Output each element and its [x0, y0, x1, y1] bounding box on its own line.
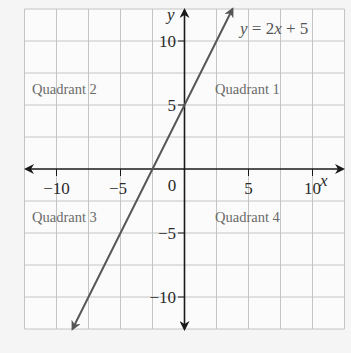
x-tick-label-neg10: −10 [43, 179, 70, 198]
quadrant-4-label: Quadrant 4 [215, 209, 281, 225]
equation-label: y = 2x + 5 [238, 19, 308, 38]
y-tick-label-neg5: −5 [158, 224, 176, 243]
x-tick-label-10: 10 [304, 179, 321, 198]
coordinate-plane-chart: −10 −5 0 5 10 10 5 −5 −10 x y y = 2x + 5… [0, 0, 351, 353]
y-tick-label-neg10: −10 [149, 288, 176, 307]
origin-label: 0 [168, 176, 177, 195]
equation-y: y [238, 19, 248, 38]
y-tick-label-5: 5 [168, 96, 177, 115]
quadrant-2-label: Quadrant 2 [32, 81, 97, 97]
y-tick-label-10: 10 [159, 32, 176, 51]
quadrant-1-label: Quadrant 1 [215, 81, 280, 97]
equation-tail: + 5 [282, 19, 309, 38]
equation-mid: = 2 [248, 19, 275, 38]
x-tick-label-5: 5 [244, 179, 253, 198]
y-axis-label: y [165, 5, 175, 24]
x-tick-label-neg5: −5 [109, 179, 127, 198]
quadrant-3-label: Quadrant 3 [32, 209, 97, 225]
x-axis-label: x [319, 171, 328, 190]
